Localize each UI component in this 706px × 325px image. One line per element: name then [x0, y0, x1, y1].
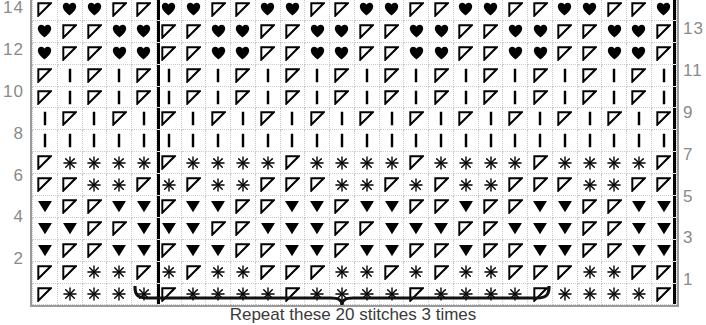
symbol-bar [380, 130, 404, 151]
right-leaning-triangle-icon [359, 46, 374, 61]
right-leaning-triangle-icon [87, 24, 102, 39]
chart-cell [651, 42, 676, 64]
chart-cell [354, 152, 379, 174]
chart-cell [404, 130, 429, 152]
right-leaning-triangle-icon [211, 221, 226, 236]
right-leaning-triangle-icon [656, 287, 671, 302]
chart-cell [379, 174, 404, 196]
purl-bar-icon [364, 133, 370, 148]
chart-cell [156, 108, 181, 130]
chart-cell [478, 217, 503, 239]
right-leaning-triangle-icon [334, 221, 349, 236]
right-leaning-triangle-icon [112, 221, 127, 236]
purl-bar-icon [265, 68, 271, 83]
chart-cell [132, 20, 157, 42]
right-leaning-triangle-icon [260, 177, 275, 192]
right-leaning-triangle-icon [557, 24, 572, 39]
symbol-rt [528, 87, 552, 108]
chart-cell [627, 283, 652, 305]
down-triangle-icon [557, 244, 573, 257]
right-leaning-triangle-icon [557, 265, 572, 280]
chart-cell [354, 86, 379, 108]
chart-cell [453, 20, 478, 42]
symbol-rt [479, 21, 503, 42]
chart-cell [602, 239, 627, 261]
symbol-star [107, 152, 131, 173]
symbol-rt [83, 43, 107, 64]
symbol-rt [231, 240, 255, 261]
chart-cell [231, 64, 256, 86]
right-leaning-triangle-icon [161, 243, 176, 258]
right-leaning-triangle-icon [285, 68, 300, 83]
purl-bar-icon [512, 68, 518, 83]
chart-cell [305, 239, 330, 261]
right-leaning-triangle-icon [62, 111, 77, 126]
symbol-dt [528, 218, 552, 239]
chart-row [33, 130, 677, 152]
symbol-star [157, 174, 181, 195]
chart-cell [181, 152, 206, 174]
chart-cell [57, 283, 82, 305]
symbol-bar [206, 65, 230, 86]
purl-bar-icon [67, 90, 73, 105]
right-leaning-triangle-icon [62, 177, 77, 192]
symbol-dt [33, 196, 57, 217]
chart-cell [255, 130, 280, 152]
star-icon [87, 156, 101, 170]
right-leaning-triangle-icon [37, 155, 52, 170]
symbol-rt [652, 284, 676, 305]
symbol-rt [58, 21, 82, 42]
symbol-heart [83, 0, 107, 20]
chart-cell [503, 108, 528, 130]
right-leaning-triangle-icon [87, 46, 102, 61]
symbol-bar [602, 130, 626, 151]
right-leaning-triangle-icon [384, 265, 399, 280]
chart-cell [429, 0, 454, 20]
purl-bar-icon [314, 133, 320, 148]
symbol-bar [281, 108, 305, 129]
symbol-rt [281, 43, 305, 64]
right-leaning-triangle-icon [260, 46, 275, 61]
symbol-rt [355, 108, 379, 129]
symbol-rt [578, 218, 602, 239]
chart-cell [478, 261, 503, 283]
symbol-rt [132, 262, 156, 283]
star-icon [607, 287, 621, 301]
chart-cell [181, 42, 206, 64]
symbol-star [479, 152, 503, 173]
chart-cell [82, 64, 107, 86]
right-leaning-triangle-icon [359, 24, 374, 39]
symbol-dt [182, 196, 206, 217]
chart-cell [651, 174, 676, 196]
chart-cell [255, 108, 280, 130]
right-leaning-triangle-icon [359, 221, 374, 236]
symbol-rt [281, 65, 305, 86]
right-leaning-triangle-icon [508, 265, 523, 280]
symbol-rt [528, 152, 552, 173]
chart-cell [57, 20, 82, 42]
purl-bar-icon [67, 68, 73, 83]
repeat-bracket-icon [133, 286, 551, 306]
symbol-star [355, 262, 379, 283]
symbol-rt [132, 87, 156, 108]
heart-icon [37, 24, 52, 38]
symbol-rt [652, 262, 676, 283]
symbol-rt [602, 196, 626, 217]
symbol-rt [256, 108, 280, 129]
symbol-dt [33, 218, 57, 239]
heart-icon [631, 46, 646, 60]
symbol-rt [404, 240, 428, 261]
symbol-rt [479, 87, 503, 108]
right-leaning-triangle-icon [112, 111, 127, 126]
right-leaning-triangle-icon [62, 265, 77, 280]
star-icon [63, 287, 77, 301]
chart-cell [478, 174, 503, 196]
heart-icon [582, 2, 597, 16]
symbol-rt [380, 65, 404, 86]
down-triangle-icon [161, 222, 177, 235]
chart-cell [206, 261, 231, 283]
chart-cell [330, 217, 355, 239]
symbol-rt [578, 196, 602, 217]
chart-cell [132, 64, 157, 86]
chart-cell [181, 64, 206, 86]
